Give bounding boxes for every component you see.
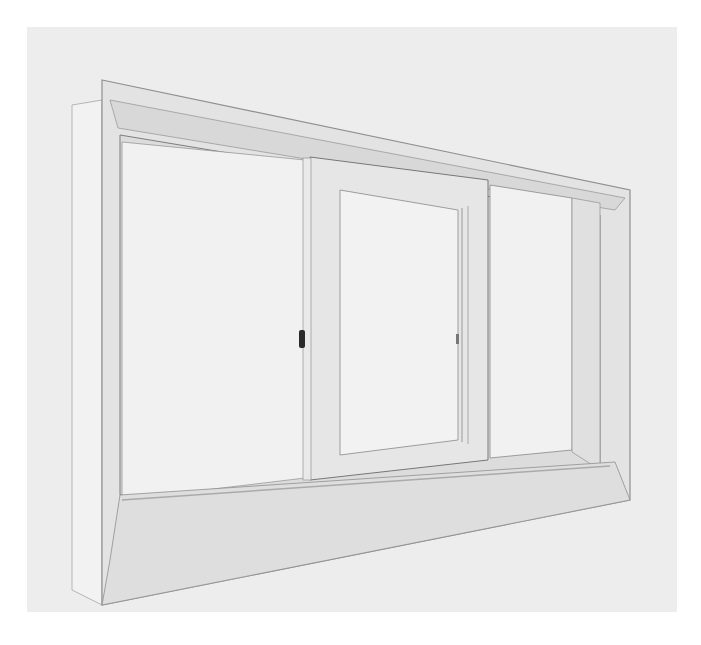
latch-icon (299, 330, 305, 348)
frame-right-jamb (572, 198, 600, 470)
frame-left-depth (72, 100, 102, 605)
sash-stile (303, 158, 311, 480)
photo-stage (0, 0, 701, 645)
fixed-right-pane (490, 185, 572, 458)
left-opening (122, 142, 305, 500)
window-illustration (0, 0, 701, 645)
sash-glass (340, 190, 458, 455)
sash-pull-icon (456, 334, 459, 344)
